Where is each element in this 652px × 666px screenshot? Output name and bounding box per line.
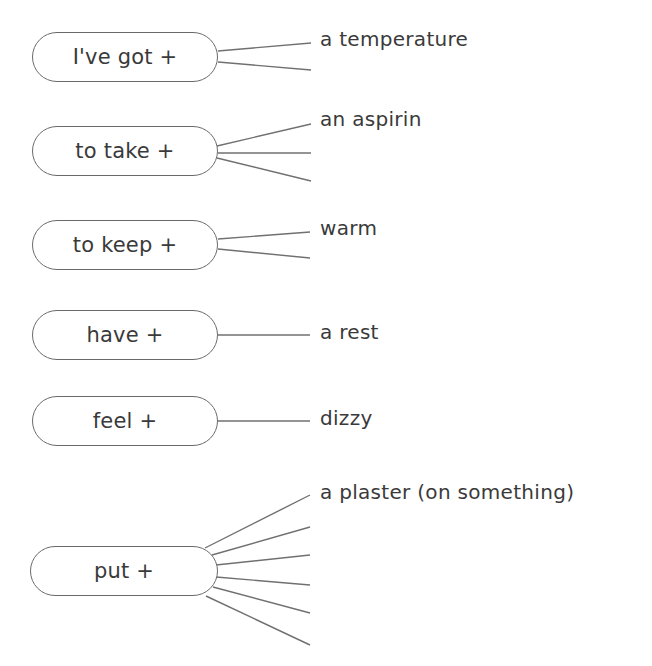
branch-line	[218, 62, 311, 70]
node-to-keep: to keep +	[32, 220, 218, 270]
branch-line	[218, 43, 311, 51]
collocation-a-rest: a rest	[320, 320, 379, 344]
branch-line	[216, 555, 310, 565]
branch-line	[205, 495, 310, 548]
node-feel: feel +	[32, 396, 218, 446]
collocation-dizzy: dizzy	[320, 406, 373, 430]
collocation-an-aspirin: an aspirin	[320, 107, 422, 131]
node-put: put +	[30, 546, 218, 596]
branch-line	[213, 587, 310, 613]
node-have: have +	[32, 310, 218, 360]
branch-line	[218, 232, 310, 239]
branch-line	[212, 527, 310, 555]
collocation-a-plaster: a plaster (on something)	[320, 480, 574, 504]
branch-line	[218, 249, 310, 258]
node-ive-got: I've got +	[32, 32, 218, 82]
collocation-a-temperature: a temperature	[320, 27, 468, 51]
branch-line	[217, 158, 311, 181]
collocation-warm: warm	[320, 216, 377, 240]
branch-line	[216, 577, 310, 585]
branch-line	[217, 124, 311, 146]
node-to-take: to take +	[32, 126, 218, 176]
branch-line	[206, 596, 310, 645]
